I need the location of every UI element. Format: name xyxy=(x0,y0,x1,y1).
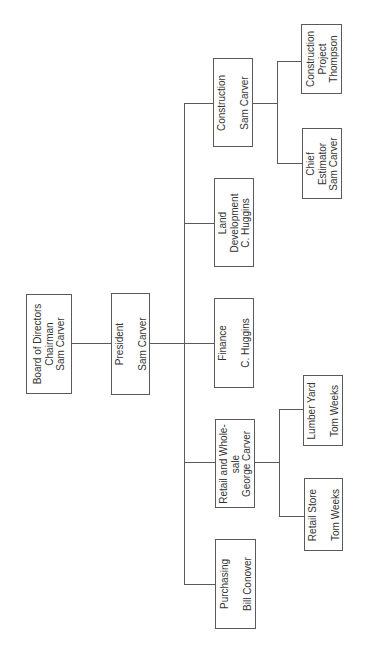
connector-chief-estimator xyxy=(277,163,302,164)
node-construction-project: Construction Project Thompson xyxy=(301,24,342,94)
node-label: Land Development C. Huggins xyxy=(217,193,252,252)
connector-retail-store xyxy=(279,516,304,517)
node-retail-wholesale: Retail and Whole- sale George Carver xyxy=(215,419,255,508)
node-label: Construction Project Thompson xyxy=(304,31,339,87)
node-label: President Sam Carver xyxy=(113,317,148,370)
connector-retail-sub xyxy=(255,462,279,463)
connector-president-trunk xyxy=(150,343,185,344)
node-chief-estimator: Chief Estimator Sam Carver xyxy=(302,128,342,199)
connector-purchasing xyxy=(184,584,215,585)
node-land-development: Land Development C. Huggins xyxy=(214,178,254,267)
node-label: Retail and Whole- sale George Carver xyxy=(218,424,253,503)
node-construction: Construction Sam Carver xyxy=(213,58,253,147)
node-label: Purchasing Bill Conover xyxy=(218,557,253,611)
node-finance: Finance C. Huggins xyxy=(214,298,254,388)
connector-lumber-yard xyxy=(279,409,303,410)
connector-construction-sub xyxy=(253,103,277,104)
connector-construction xyxy=(184,103,213,104)
construction-sub-trunk xyxy=(277,61,278,163)
node-label: Lumber Yard Tom Weeks xyxy=(306,382,341,439)
node-purchasing: Purchasing Bill Conover xyxy=(215,539,256,629)
node-lumber-yard: Lumber Yard Tom Weeks xyxy=(303,375,343,446)
connector-finance xyxy=(184,343,214,344)
node-president: President Sam Carver xyxy=(111,293,150,395)
org-chart: Board of Directors Chairman Sam Carver P… xyxy=(0,0,365,652)
connector-construction-project xyxy=(277,61,301,62)
node-label: Retail Store Tom Weeks xyxy=(306,488,341,540)
node-label: Finance C. Huggins xyxy=(217,318,252,367)
node-label: Board of Directors Chairman Sam Carver xyxy=(32,304,67,385)
connector-board-president xyxy=(72,343,111,344)
node-retail-store: Retail Store Tom Weeks xyxy=(304,478,343,551)
retail-sub-trunk xyxy=(279,409,280,516)
connector-land-development xyxy=(184,223,214,224)
node-label: Construction Sam Carver xyxy=(216,74,251,130)
connector-retail-wholesale xyxy=(184,462,215,463)
node-label: Chief Estimator Sam Carver xyxy=(305,137,340,190)
node-board-of-directors: Board of Directors Chairman Sam Carver xyxy=(26,294,72,394)
